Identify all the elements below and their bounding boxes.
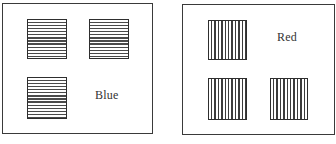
vertical-striped-square-bottom-right: [270, 78, 308, 120]
panel-label-red: Red: [277, 31, 297, 43]
vertical-striped-square-top-left: [208, 20, 247, 60]
panel-label-blue: Blue: [95, 89, 118, 101]
horizontal-striped-square-bottom-left: [27, 77, 67, 119]
vertical-striped-square-bottom-left: [208, 78, 247, 120]
left-panel: Blue: [2, 3, 153, 134]
right-panel: Red: [182, 4, 335, 135]
horizontal-striped-square-top-left: [27, 19, 67, 59]
horizontal-striped-square-top-right: [89, 19, 129, 59]
